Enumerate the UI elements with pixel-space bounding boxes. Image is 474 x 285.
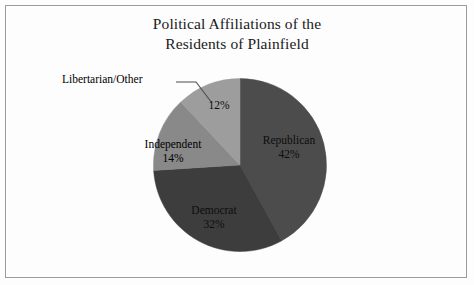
pie-name-democrat: Democrat — [172, 203, 256, 217]
pie-percent-republican: 42% — [247, 147, 331, 161]
pie-name-republican: Republican — [247, 133, 331, 147]
pie-percent-democrat: 32% — [172, 217, 256, 231]
chart-title: Political Affiliations of the Residents … — [0, 14, 474, 54]
pie-label-independent: Independent 14% — [132, 137, 214, 165]
chart-title-line-2: Residents of Plainfield — [0, 34, 474, 54]
pie-label-libertarian-other-percent: 12% — [198, 98, 240, 112]
pie-label-democrat: Democrat 32% — [172, 203, 256, 231]
pie-percent-libertarian-other: 12% — [198, 98, 240, 112]
pie-label-republican: Republican 42% — [247, 133, 331, 161]
chart-canvas: Political Affiliations of the Residents … — [0, 0, 474, 285]
pie-label-libertarian-other-name: Libertarian/Other — [62, 72, 142, 86]
pie-name-independent: Independent — [132, 137, 214, 151]
pie-percent-independent: 14% — [132, 151, 214, 165]
chart-title-line-1: Political Affiliations of the — [0, 14, 474, 34]
